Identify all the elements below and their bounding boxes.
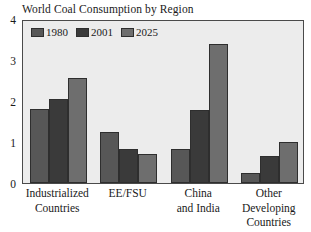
bar [171, 149, 190, 183]
legend-label: 1980 [46, 27, 68, 38]
legend-item-1980: 1980 [31, 27, 68, 38]
chart-title: World Coal Consumption by Region [22, 3, 194, 15]
bar [241, 173, 260, 183]
y-axis-tick-label: 3 [10, 55, 16, 67]
legend-label: 2001 [91, 27, 113, 38]
bar-group [241, 21, 298, 183]
plot-area [23, 21, 303, 183]
legend-swatch-icon [76, 28, 89, 37]
bar [49, 99, 68, 183]
bar [100, 132, 119, 183]
legend-item-2001: 2001 [76, 27, 113, 38]
bar [119, 149, 138, 183]
x-axis-label-line: Countries [222, 215, 311, 230]
y-axis: 01234 [0, 20, 20, 184]
bar [260, 156, 279, 183]
x-axis-label-line: Countries [10, 201, 105, 216]
y-axis-tick-label: 4 [10, 14, 16, 26]
y-axis-tick-label: 2 [10, 96, 16, 108]
legend-swatch-icon [121, 28, 134, 37]
x-axis-label-line: Other [222, 186, 311, 201]
bar-group [171, 21, 228, 183]
plot-frame: 198020012025 [22, 20, 304, 184]
chart-figure: World Coal Consumption by Region 01234 1… [0, 0, 310, 232]
bar [190, 110, 209, 183]
y-axis-tick-label: 1 [10, 137, 16, 149]
bar [279, 142, 298, 183]
x-axis-category-label: OtherDevelopingCountries [222, 186, 311, 230]
legend-swatch-icon [31, 28, 44, 37]
bar-group [30, 21, 87, 183]
bar [30, 109, 49, 183]
x-axis: IndustrializedCountriesEE/FSUChinaand In… [22, 186, 304, 232]
bar [138, 154, 157, 183]
bar [209, 44, 228, 183]
legend-item-2025: 2025 [121, 27, 158, 38]
x-axis-label-line: Developing [222, 201, 311, 216]
bar [68, 78, 87, 183]
chart-legend: 198020012025 [28, 26, 161, 39]
bar-group [100, 21, 157, 183]
legend-label: 2025 [136, 27, 158, 38]
